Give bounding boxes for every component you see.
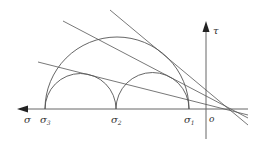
sigma1-label: σ1 <box>184 114 195 126</box>
mohr-circle-diagram: σ τ o σ3 σ2 σ1 <box>0 0 266 148</box>
tangent-line-2 <box>63 21 248 118</box>
sigma-axis-label: σ <box>24 114 32 125</box>
tau-arrow-icon <box>203 21 210 32</box>
tangent-line-1 <box>110 10 248 125</box>
tangent-line-3 <box>38 62 248 115</box>
tau-axis-label: τ <box>213 25 219 36</box>
sigma3-label: σ3 <box>40 114 51 126</box>
large-mohr-circle <box>45 37 189 109</box>
sigma2-label: σ2 <box>111 114 122 126</box>
origin-label: o <box>209 114 215 124</box>
sigma-arrow-icon <box>17 106 28 113</box>
